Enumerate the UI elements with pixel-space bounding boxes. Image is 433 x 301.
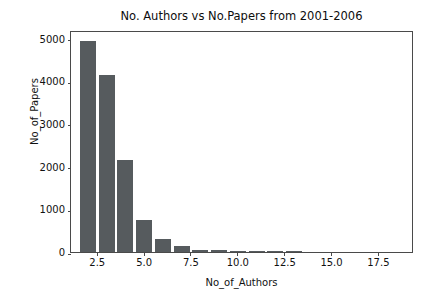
y-axis-label: No_of_Papers xyxy=(29,67,40,157)
y-tick-label: 2000 xyxy=(40,162,65,173)
x-tick-mark xyxy=(144,252,145,256)
x-tick-label: 7.5 xyxy=(183,257,199,268)
chart-title: No. Authors vs No.Papers from 2001-2006 xyxy=(70,9,413,23)
x-tick-mark xyxy=(284,252,285,256)
y-tick-mark xyxy=(68,254,72,255)
x-tick-label: 10.0 xyxy=(227,257,249,268)
y-tick-label: 4000 xyxy=(40,76,65,87)
x-tick-mark xyxy=(378,252,379,256)
x-tick-mark xyxy=(237,252,238,256)
bar xyxy=(211,250,227,252)
y-tick-label: 1000 xyxy=(40,204,65,215)
x-tick-label: 5.0 xyxy=(136,257,152,268)
y-tick-label: 3000 xyxy=(40,119,65,130)
y-tick-mark xyxy=(68,40,72,41)
bar xyxy=(286,251,302,252)
bar xyxy=(174,246,190,252)
bar-series xyxy=(71,32,412,252)
bar xyxy=(117,160,133,252)
chart-figure: No. Authors vs No.Papers from 2001-2006 … xyxy=(0,0,433,301)
bar xyxy=(136,220,152,252)
x-tick-mark xyxy=(331,252,332,256)
bar xyxy=(80,41,96,252)
y-tick-mark xyxy=(68,125,72,126)
x-axis-label: No_of_Authors xyxy=(70,277,413,288)
bar xyxy=(249,251,265,252)
x-tick-label: 15.0 xyxy=(320,257,342,268)
bar xyxy=(155,239,171,252)
y-tick-mark xyxy=(68,168,72,169)
x-tick-mark xyxy=(97,252,98,256)
bar xyxy=(192,250,208,252)
y-tick-label: 5000 xyxy=(40,34,65,45)
y-tick-mark xyxy=(68,83,72,84)
y-tick-mark xyxy=(68,211,72,212)
bar xyxy=(267,251,283,252)
x-tick-mark xyxy=(190,252,191,256)
x-tick-label: 17.5 xyxy=(367,257,389,268)
x-tick-label: 12.5 xyxy=(274,257,296,268)
bar xyxy=(99,75,115,252)
y-tick-label: 0 xyxy=(59,247,65,258)
plot-area: 010002000300040005000 2.55.07.510.012.51… xyxy=(70,31,413,253)
x-tick-label: 2.5 xyxy=(89,257,105,268)
